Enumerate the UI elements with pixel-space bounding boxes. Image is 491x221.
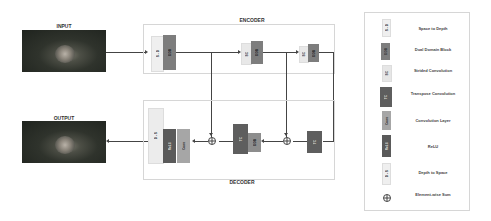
connector [264, 141, 283, 142]
connector [263, 52, 297, 53]
encoder-label: ENCODER [222, 17, 282, 23]
bottleneck-connector-h [319, 52, 333, 53]
connector [195, 141, 208, 142]
legend-label-dual-domain-block: Dual Domain Block [398, 47, 468, 52]
element-wise-sum-2 [283, 137, 291, 145]
legend-label-strided-convolution: Strided Convolution [403, 68, 463, 73]
arrow-head [106, 139, 109, 143]
connector [219, 141, 233, 142]
legend-label-element-wise-sum: Element-wise Sum [403, 192, 463, 197]
legend-label-convolution-layer: Convolution Layer [398, 118, 468, 123]
legend-label-space-to-depth: Space to Depth [398, 26, 468, 31]
legend-depth-to-space-icon: D - S [382, 163, 391, 185]
element-wise-sum-1 [208, 137, 216, 145]
legend-element-wise-sum-icon [383, 194, 391, 202]
legend-label-depth-to-space: Depth to Space [398, 170, 468, 175]
decoder-d2s-block: D - S [148, 108, 164, 164]
legend-relu-icon: ReLU [382, 135, 391, 157]
input-image [22, 30, 106, 72]
input-label: INPUT [22, 23, 106, 29]
arrow-head [192, 139, 195, 143]
legend-box [364, 12, 470, 211]
encoder-ddb-block-3: DDB [308, 44, 319, 62]
legend-transpose-convolution-icon: TC [380, 87, 392, 107]
decoder-relu-block: ReLU [163, 129, 176, 163]
decoder-conv-block: Conv [177, 129, 190, 163]
legend-label-transpose-convolution: Transpose Convolution [403, 91, 463, 96]
legend-strided-convolution-icon: SC [382, 65, 392, 82]
decoder-tc-block-2: TC [233, 124, 248, 154]
encoder-ddb-block-2: DDB [251, 41, 263, 64]
connector [176, 52, 238, 53]
decoder-ddb-block: DDB [248, 133, 261, 152]
encoder-ddb-block: DDB [163, 35, 176, 70]
legend-label-relu: ReLU [398, 144, 468, 149]
arrow-head [261, 139, 264, 143]
decoder-label: DECODER [212, 179, 272, 185]
output-image [22, 121, 106, 163]
legend-convolution-layer-icon: Conv [382, 111, 391, 130]
legend-dual-domain-block-icon: DDB [381, 43, 390, 60]
legend-space-to-depth-icon: S - D [382, 19, 391, 37]
output-arrow-line [108, 141, 148, 142]
connector [293, 141, 307, 142]
input-arrow-line [106, 52, 146, 53]
decoder-tc-block-1: TC [307, 131, 322, 153]
